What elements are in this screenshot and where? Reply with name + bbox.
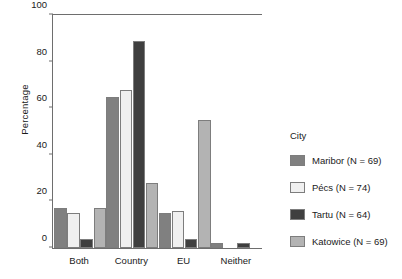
y-tick-label: 0 — [42, 232, 53, 243]
bar-chart-figure: Percentage 020406080100 BothCountryEUNei… — [0, 0, 402, 279]
y-tick-mark — [49, 153, 53, 154]
bar — [80, 239, 93, 248]
y-tick-label: 60 — [36, 92, 53, 103]
legend-label: Pécs (N = 74) — [312, 182, 370, 193]
bar — [120, 90, 133, 248]
bar — [237, 243, 250, 248]
bar-series-container — [54, 15, 262, 248]
y-tick-label: 80 — [36, 45, 53, 56]
bar — [54, 208, 67, 248]
bar — [67, 213, 80, 248]
x-tick-label: Neither — [221, 255, 252, 266]
legend-swatch — [290, 182, 305, 193]
legend-item: Tartu (N = 64) — [290, 207, 402, 221]
legend-swatch — [290, 155, 305, 166]
legend-item: Maribor (N = 69) — [290, 153, 402, 167]
plot-area: 020406080100 BothCountryEUNeither — [52, 14, 262, 249]
y-tick-label: 100 — [31, 0, 53, 10]
legend-title: City — [290, 130, 402, 141]
legend-item: Katowice (N = 69) — [290, 234, 402, 248]
bar-group — [211, 15, 263, 248]
bar — [106, 97, 119, 248]
legend-swatch — [290, 209, 305, 220]
bar — [185, 239, 198, 248]
x-tick-label: Country — [115, 255, 148, 266]
bar — [159, 213, 172, 248]
bar — [211, 243, 224, 248]
bar — [146, 183, 159, 248]
bar-group — [159, 15, 211, 248]
x-tick-label: Both — [69, 255, 89, 266]
y-tick-mark — [49, 60, 53, 61]
bar-group — [54, 15, 106, 248]
bar — [172, 211, 185, 248]
y-tick-mark — [49, 247, 53, 248]
y-tick-mark — [49, 107, 53, 108]
y-tick-mark — [49, 14, 53, 15]
legend-swatch — [290, 236, 305, 247]
legend-items: Maribor (N = 69)Pécs (N = 74)Tartu (N = … — [290, 153, 402, 248]
bar — [198, 120, 211, 248]
legend-label: Tartu (N = 64) — [312, 209, 370, 220]
bar-group — [106, 15, 158, 248]
y-tick-label: 40 — [36, 138, 53, 149]
legend-item: Pécs (N = 74) — [290, 180, 402, 194]
y-tick-label: 20 — [36, 185, 53, 196]
legend: City Maribor (N = 69)Pécs (N = 74)Tartu … — [290, 130, 402, 261]
bar — [133, 41, 146, 248]
legend-label: Maribor (N = 69) — [312, 155, 381, 166]
y-tick-mark — [49, 200, 53, 201]
bar — [94, 208, 107, 248]
y-axis-title: Percentage — [19, 50, 30, 170]
legend-label: Katowice (N = 69) — [312, 236, 388, 247]
x-tick-label: EU — [177, 255, 190, 266]
